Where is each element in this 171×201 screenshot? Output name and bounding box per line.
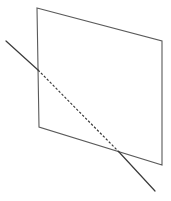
intersecting-line-segment-before-plane [6, 41, 38, 70]
geometry-figure-canvas [0, 0, 171, 201]
plane-parallelogram [37, 8, 162, 165]
geometry-figure-svg [0, 0, 171, 201]
